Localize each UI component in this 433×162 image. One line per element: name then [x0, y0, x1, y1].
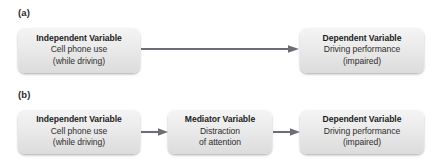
- panel-b-independent-variable-box: Independent Variable Cell phone use (whi…: [18, 110, 140, 154]
- mediation-figure: (a) Independent Variable Cell phone use …: [0, 0, 433, 162]
- panel-b-label: (b): [18, 90, 31, 100]
- box-line-2: Cell phone use: [51, 44, 108, 56]
- box-line-2: Cell phone use: [51, 126, 108, 138]
- panel-b-arrow-mv-to-dv: [273, 127, 300, 137]
- panel-a-independent-variable-box: Independent Variable Cell phone use (whi…: [18, 28, 140, 73]
- box-line-3: (while driving): [53, 137, 105, 149]
- box-line-2: Driving performance: [324, 44, 400, 56]
- box-title: Dependent Variable: [323, 114, 402, 125]
- panel-a-label: (a): [18, 8, 30, 18]
- box-title: Mediator Variable: [185, 114, 255, 125]
- box-line-3: of attention: [199, 137, 241, 149]
- box-line-2: Driving performance: [324, 126, 400, 138]
- panel-a-arrow-iv-to-dv: [141, 44, 299, 54]
- panel-a-dependent-variable-box: Dependent Variable Driving performance (…: [300, 28, 424, 73]
- panel-b-dependent-variable-box: Dependent Variable Driving performance (…: [300, 110, 424, 154]
- box-line-3: (impaired): [343, 137, 381, 149]
- panel-b-mediator-variable-box: Mediator Variable Distraction of attenti…: [168, 110, 272, 154]
- panel-b-arrow-iv-to-mv: [141, 127, 168, 137]
- box-line-3: (while driving): [53, 56, 105, 68]
- box-title: Independent Variable: [36, 33, 121, 44]
- box-line-2: Distraction: [200, 126, 240, 138]
- box-line-3: (impaired): [343, 56, 381, 68]
- box-title: Dependent Variable: [323, 33, 402, 44]
- box-title: Independent Variable: [36, 114, 121, 125]
